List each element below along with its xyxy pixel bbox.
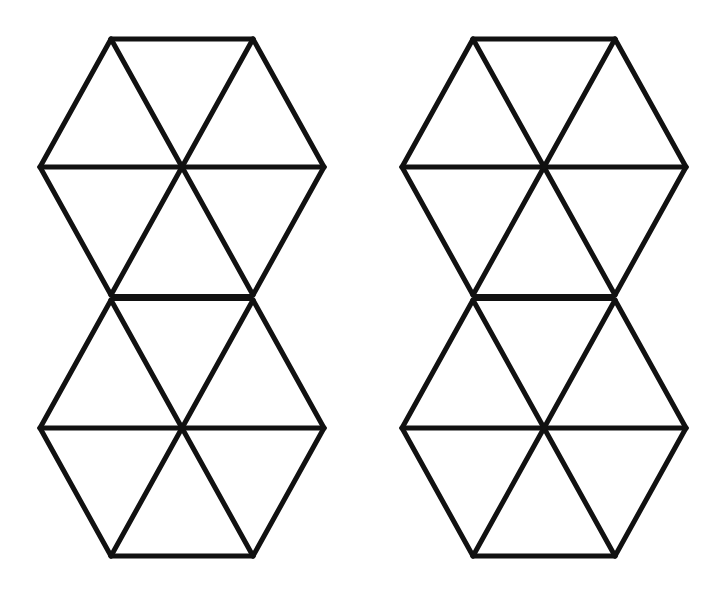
hexagon-edge (615, 428, 686, 556)
triangle-spoke (473, 428, 544, 556)
triangle-spoke (182, 167, 253, 295)
triangle-spoke (544, 167, 615, 295)
hexagon-edge (253, 39, 324, 167)
hexagon-edge (40, 300, 111, 428)
hexagon-bottom (40, 300, 324, 556)
hexagon-diagram (0, 0, 727, 589)
hexagon-edge (402, 300, 473, 428)
triangle-spoke (111, 39, 182, 167)
hexagon-bottom (402, 300, 686, 556)
hexagon-edge (253, 428, 324, 556)
triangle-spoke (544, 39, 615, 167)
triangle-spoke (182, 300, 253, 428)
hexagon-edge (40, 39, 111, 167)
triangle-spoke (111, 300, 182, 428)
hexagon-edge (40, 428, 111, 556)
hexagon-edge (402, 39, 473, 167)
hexagon-edge (40, 167, 111, 295)
triangle-spoke (544, 300, 615, 428)
left-figure (40, 39, 324, 556)
hexagon-edge (402, 167, 473, 295)
triangle-spoke (111, 167, 182, 295)
triangle-spoke (182, 428, 253, 556)
triangle-spoke (473, 300, 544, 428)
hexagon-top (40, 39, 324, 295)
hexagon-edge (253, 300, 324, 428)
right-figure (402, 39, 686, 556)
hexagon-edge (615, 39, 686, 167)
hexagon-edge (615, 300, 686, 428)
hexagon-edge (253, 167, 324, 295)
hexagon-edge (402, 428, 473, 556)
triangle-spoke (544, 428, 615, 556)
triangle-spoke (473, 39, 544, 167)
triangle-spoke (111, 428, 182, 556)
hexagon-top (402, 39, 686, 295)
triangle-spoke (182, 39, 253, 167)
triangle-spoke (473, 167, 544, 295)
hexagon-edge (615, 167, 686, 295)
